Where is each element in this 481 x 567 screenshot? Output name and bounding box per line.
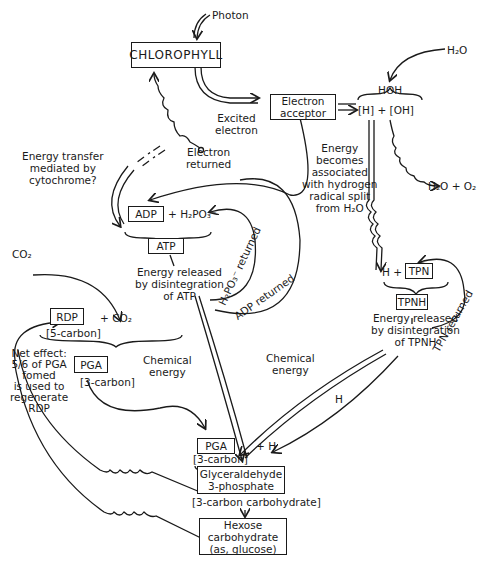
energy-hydrogen-label: Energybecomesassociatedwith hydrogenradi… <box>302 142 377 214</box>
tpnh-box: TPNH <box>396 294 428 310</box>
chemical-energy-tpnh-label: Chemicalenergy <box>266 352 315 376</box>
chemical-energy-atp-label: Chemicalenergy <box>143 354 192 378</box>
excited-electron-label: Excitedelectron <box>215 112 258 136</box>
co2-input-label: CO₂ <box>12 248 32 260</box>
atp-release-label: Energy releasedby disintegrationof ATP <box>135 266 224 302</box>
tpn-box: TTPN <box>405 263 433 279</box>
water-oxygen-label: H₂O + O₂ <box>428 180 476 192</box>
pga-product-box: PGA <box>197 438 235 454</box>
five-carbon-label: [5-carbon] <box>46 327 101 339</box>
three-carbon-carbohydrate-label: [3-carbon carbohydrate] <box>192 496 321 508</box>
chlorophyll-box: CHLOROPHYLL <box>131 42 221 68</box>
atp-box: ATP <box>148 238 184 254</box>
glyceraldehyde-box: Glyceraldehyde3-phosphate <box>197 466 285 494</box>
hexose-box: Hexosecarbohydrate(as, glucose) <box>199 518 287 555</box>
three-carbon-product-label: [3-carbon] <box>193 453 248 465</box>
plus-h-label: + H <box>256 440 276 452</box>
h2po3-label: + H₂PO₃⁻ <box>168 208 217 220</box>
net-effect-label: Net effect:5/6 of PGAfomedis used torege… <box>10 348 68 414</box>
three-carbon-label: [3-carbon] <box>80 376 135 388</box>
water-input-label: H₂O <box>447 44 467 56</box>
rdp-box: RDP <box>50 308 84 325</box>
chlorophyll-label: CHLOROPHYLL <box>129 49 222 61</box>
h-oh-label: [H] + [OH] <box>358 104 414 116</box>
electron-acceptor-box: Electronacceptor <box>270 94 336 120</box>
h-plus-label: H + <box>382 266 402 278</box>
energy-transfer-label: Energy transfermediated bycytochrome? <box>22 150 104 186</box>
hydrogen-label: H <box>335 393 343 405</box>
pga-box: PGA <box>74 356 108 373</box>
hoh-label: HOH <box>378 84 402 96</box>
co2-plus-label: + CO₂ <box>100 312 132 324</box>
adp-box: ADP <box>128 206 164 222</box>
photon-label: Photon <box>212 9 249 21</box>
electron-returned-label: Electronreturned <box>186 146 231 170</box>
